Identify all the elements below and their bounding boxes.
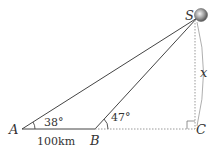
label-B: B	[89, 133, 100, 148]
angle-arc-A	[33, 122, 35, 129]
angle-B-value: 47°	[111, 111, 131, 124]
distance-AB-label: 100km	[37, 135, 76, 148]
label-A: A	[8, 122, 18, 137]
angle-A-value: 38°	[44, 116, 64, 129]
triangle-diagram: S A B C x 38° 47° 100km	[0, 0, 222, 153]
label-C: C	[196, 122, 206, 137]
satellite-ball-icon	[195, 9, 208, 22]
label-S: S	[185, 8, 194, 23]
angle-arc-B	[104, 119, 108, 129]
label-x: x	[200, 65, 208, 80]
segment-AS	[22, 18, 197, 129]
right-angle-marker	[187, 121, 195, 129]
